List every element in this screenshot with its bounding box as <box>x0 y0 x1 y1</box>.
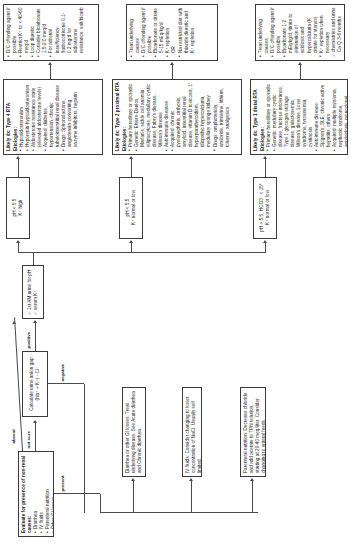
arrow-to-ph-normal-k <box>129 240 133 243</box>
list-item: Treat underlying causes <box>129 7 141 57</box>
ph-high-k-line2: K⁺ high <box>18 200 24 216</box>
arrow-to-ph-high-k <box>16 240 20 243</box>
list-item: Treat underlying causes <box>258 7 270 57</box>
tx-type2-list: Treat underlying causes D/C offending ag… <box>129 7 196 57</box>
list-item: For adrenal insufficiency: fludrocortiso… <box>48 7 84 57</box>
list-item: Acquired: chronic pyelonephritis, cirrho… <box>170 82 212 151</box>
arrow-type1-to-tx <box>298 62 302 65</box>
tx-type4-list: D/C offending agent if possible Restrict… <box>6 7 85 57</box>
connector-to-ph-high-k <box>18 243 19 253</box>
connector-bus-left <box>100 512 258 513</box>
list-item: Drugs: Spironolactone, angiotensin-conve… <box>61 82 79 151</box>
node-dx-type4-rta: Likely dx: Type 4 RTA Etiologies: Hypoal… <box>3 79 103 155</box>
tx-iv-text: IV fluids: Consider changing to lower co… <box>185 390 202 473</box>
arrow-positive-to-amurine <box>33 320 37 323</box>
edge-label-not-sure: not sure <box>26 431 31 449</box>
connector-evaluate-down <box>54 493 100 494</box>
node-tx-parenteral-nutrition: Parenteral nutrition: Decrease chloride … <box>240 387 266 477</box>
type2-title: Likely dx: Type 2 proximal RTA <box>115 82 121 151</box>
connector-phnormal-to-type2 <box>131 159 132 177</box>
edge-label-negative: negative <box>60 363 65 382</box>
connector-amurine-spine <box>18 252 265 253</box>
anion-gap-line2: (Na⁺ + K⁺) - Cl⁻ <box>35 367 41 401</box>
list-item: Na restricted diet with thiazide diureti… <box>178 7 196 57</box>
node-evaluate-title: Evaluate for presence of non-renal cause… <box>21 454 33 533</box>
connector-to-ph-normal-k <box>131 243 132 253</box>
connector-to-ivfluids <box>191 481 192 513</box>
list-item: Genetic: Ehlers-Danlos, Marfan's, sickle… <box>134 82 164 151</box>
arrow-to-ph-distal <box>263 240 267 243</box>
list-item: K⁺ repletion when necessary <box>319 7 331 57</box>
tx-type1-list: Treat underlying causes D/C offending ag… <box>258 7 343 57</box>
arrow-to-diarrhea <box>131 478 135 481</box>
arrow-to-aniongap <box>33 420 37 423</box>
arrow-to-type1 <box>263 156 267 159</box>
connector-phdistal-to-type1 <box>265 159 266 177</box>
connector-aniongap-to-amurine <box>35 323 36 351</box>
list-item: D/C offending agent if possible <box>270 7 282 57</box>
node-ph-low-k-normal: pH < 5.5 K⁺ normal or low <box>119 177 143 239</box>
list-item: Bicarbonate 1-2 mEq/kg/d, titrate to eli… <box>282 7 318 57</box>
node-tx-type2: Treat underlying causes D/C offending ag… <box>126 4 218 61</box>
list-item: D/C offending agent if possible <box>6 7 18 57</box>
node-first-am-urine: 1st AM urine for pH serum K⁺ <box>22 265 44 319</box>
connector-to-tpn <box>252 481 253 513</box>
flowchart-canvas: Evaluate for presence of non-renal cause… <box>0 0 351 543</box>
list-item: Genetic: medullary cystic disease, fruct… <box>272 82 314 151</box>
connector-amurine-out <box>33 253 34 265</box>
list-item: D/C offending agent if possible <box>141 7 153 57</box>
arrow-to-type2 <box>129 156 133 159</box>
edge-label-absent: absent <box>11 429 16 444</box>
connector-bottom-bus <box>100 494 101 513</box>
am-urine-list: 1st AM urine for pH serum K⁺ <box>27 268 39 315</box>
connector-aniongap-negative-h <box>84 384 85 513</box>
connector-aniongap-negative-v <box>48 383 84 384</box>
node-calculate-urine-anion-gap: Calculate urine anion gap: (Na⁺ + K⁺) - … <box>22 351 48 417</box>
node-tx-iv-fluids: IV fluids: Consider changing to lower co… <box>182 387 202 477</box>
connector-phhigh-to-type4 <box>18 159 19 177</box>
tx-tpn-text: Parenteral nutrition: Decrease chloride … <box>243 390 266 473</box>
node-ph-low-k-high: pH < 5.5 K⁺ high <box>6 177 30 239</box>
type4-title: Likely dx: Type 4 RTA <box>6 82 12 151</box>
arrow-type2-to-tx <box>170 62 174 65</box>
connector-to-diarrhea <box>133 481 134 513</box>
connector-type4-to-tx <box>50 65 51 79</box>
arrow-to-ivfluids <box>189 478 193 481</box>
type1-title: Likely dx: Type 1 distal RTA <box>253 82 259 151</box>
node-dx-type2-proximal-rta: Likely dx: Type 2 proximal RTA Etiologie… <box>112 79 242 155</box>
list-item: Drugs: amphotericin, amiloride, trimteri… <box>213 82 231 151</box>
node-dx-type1-distal-rta: Likely dx: Type 1 distal RTA Etiologies:… <box>250 79 348 155</box>
type2-etiologies-list: Primary hereditary or sporadic Genetic: … <box>128 82 231 151</box>
connector-type2-to-tx <box>172 65 173 79</box>
list-item: Acquired: diabetes, hypertension, chroni… <box>43 82 61 151</box>
connector-to-ph-distal <box>265 243 266 253</box>
tx-diarrhea-text: Diarrhea or other GI losses: Treat under… <box>125 390 143 473</box>
list-item: Restrict K⁺ to < 40-60 meq/d <box>18 7 30 57</box>
arrow-to-tpn <box>250 478 254 481</box>
type4-etiologies-list: Hypoaldosteronism Hyporenin-hypoaldoster… <box>19 82 80 151</box>
node-tx-type1: Treat underlying causes D/C offending ag… <box>255 4 345 61</box>
type1-etiologies-list: Primary hereditary or sporadic Genetic: … <box>266 82 348 151</box>
list-item: Acquired: multiple myeloma, nephrotic sy… <box>332 82 348 151</box>
node-tx-diarrhea-gi-losses: Diarrhea or other GI losses: Treat under… <box>122 387 146 477</box>
node-evaluate-nonrenal-causes: Evaluate for presence of non-renal cause… <box>18 451 54 537</box>
ph-distal-line2: K⁺ normal or low <box>265 190 271 225</box>
list-item: serum K⁺ <box>33 268 39 315</box>
node-evaluate-list: Diarrhea IV fluids Parenteral nutrition … <box>33 454 54 533</box>
arrow-type4-to-tx <box>48 62 52 65</box>
edge-label-present: present <box>60 475 65 492</box>
list-item: Autoimmune disease: Sjogren's, SLE, chro… <box>314 82 332 151</box>
arrow-absent-to-amurine <box>11 321 15 324</box>
node-tx-type4: D/C offending agent if possible Restrict… <box>3 4 99 61</box>
list-item: Bicarbonate or citrate 5-15 mEq/kg/d <box>153 7 165 57</box>
connector-type1-to-tx <box>300 65 301 79</box>
rotated-flowchart-container: Evaluate for presence of non-renal cause… <box>0 0 351 543</box>
ph-normal-k-line2: K⁺ normal or low <box>131 190 137 225</box>
list-item: Consider bicarbonate 1.5-2.0 meq/d <box>36 7 48 57</box>
edge-label-positive: positive <box>26 331 31 349</box>
connector-evaluate-to-aniongap <box>35 423 36 451</box>
list-item: chemistries and urine Ca Q 3-6 months <box>331 7 343 57</box>
list-item: Aldosterone resistance state (elevated a… <box>31 82 43 151</box>
arrow-to-type4 <box>16 156 20 159</box>
node-ph-high-distal: pH > 5.5, HCO3⁻ < 15* K⁺ normal or low <box>253 177 277 239</box>
